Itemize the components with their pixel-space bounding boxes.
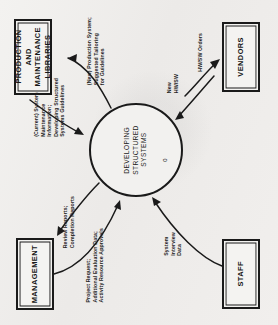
data-flow-diagram: PRODUCTION AND MAINTENANCE LIBRARIES VEN… — [0, 0, 278, 325]
entity-label: MANAGEMENT — [30, 245, 40, 303]
entity-management[interactable]: MANAGEMENT — [16, 238, 54, 310]
flow-label-new-hw-sw: New HW/SW — [166, 74, 179, 93]
process-id-number: 0 — [162, 158, 168, 161]
entity-label: STAFF — [236, 261, 246, 287]
flow-label-system-interview-data: System Interview Data — [163, 232, 183, 256]
flow-label-current-system-maintenance-information: (Current) System Maintenance Information… — [33, 78, 66, 137]
entity-label: VENDORS — [236, 37, 246, 77]
flow-label-new-production-system: (New) Production System; Suggested Tailo… — [86, 17, 106, 85]
flow-label-hw-sw-orders: HW/SW Orders — [197, 33, 204, 72]
flow-arrow-new-hwsw — [175, 76, 214, 120]
entity-vendors[interactable]: VENDORS — [222, 22, 260, 92]
flow-label-review-reports-completion-reports: Review Reports; Completion Reports — [62, 196, 75, 248]
process-label: DEVELOPING STRUCTURED SYSTEMS — [123, 125, 149, 174]
flow-label-project-request: Project Request; Additional Evaluation D… — [85, 228, 105, 303]
entity-staff[interactable]: STAFF — [222, 239, 260, 309]
process-developing-structured-systems[interactable]: DEVELOPING STRUCTURED SYSTEMS 0 — [89, 103, 183, 197]
